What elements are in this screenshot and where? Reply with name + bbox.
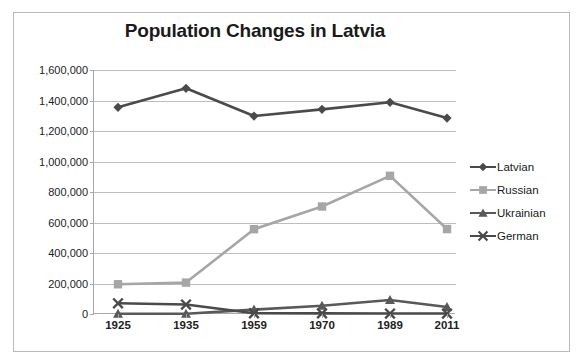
legend-item-russian[interactable]: Russian <box>470 178 570 201</box>
x-axis-tick-mark <box>254 314 255 318</box>
y-axis-tick-mark <box>90 314 94 315</box>
legend-item-german[interactable]: German <box>470 224 570 247</box>
x-axis-tick-label: 1989 <box>377 319 403 331</box>
y-axis-tick-label: 400,000 <box>10 247 88 259</box>
gridline <box>94 70 456 71</box>
y-axis-tick-mark <box>90 162 94 163</box>
gridline <box>94 284 456 285</box>
y-axis-tick-mark <box>90 284 94 285</box>
y-axis-tick-label: 1,200,000 <box>10 125 88 137</box>
x-axis-tick-label: 1925 <box>105 319 131 331</box>
gridline <box>94 162 456 163</box>
gridline <box>94 101 456 102</box>
gridline <box>94 192 456 193</box>
x-axis-tick-label: 2011 <box>435 319 460 331</box>
y-axis-tick-label: 1,600,000 <box>10 64 88 76</box>
page-title: Population Changes in Latvia <box>40 20 470 42</box>
x-axis-tick-mark <box>390 314 391 318</box>
legend-marker-glyph <box>470 183 496 197</box>
plot-area <box>93 70 455 314</box>
y-axis-tick-mark <box>90 131 94 132</box>
x-axis-tick-label: 1959 <box>241 319 267 331</box>
legend-marker-icon <box>470 183 496 197</box>
gridline <box>94 131 456 132</box>
chart-figure: Population Changes in Latvia 1,600,0001,… <box>0 0 582 364</box>
legend-marker-glyph <box>470 229 496 243</box>
y-axis-tick-labels: 1,600,0001,400,0001,200,0001,000,000800,… <box>8 70 88 314</box>
y-axis-tick-mark <box>90 101 94 102</box>
y-axis-tick-label: 1,000,000 <box>10 156 88 168</box>
chart-legend: LatvianRussianUkrainianGerman <box>470 155 570 247</box>
gridline <box>94 223 456 224</box>
x-axis-tick-mark <box>447 314 448 318</box>
legend-label: Russian <box>497 184 539 196</box>
x-axis-tick-mark <box>118 314 119 318</box>
y-axis-tick-mark <box>90 192 94 193</box>
legend-marker-glyph <box>470 206 496 220</box>
legend-marker-icon <box>470 206 496 220</box>
legend-marker-icon <box>470 229 496 243</box>
x-axis-tick-mark <box>322 314 323 318</box>
x-axis-tick-label: 1970 <box>309 319 335 331</box>
y-axis-tick-mark <box>90 70 94 71</box>
legend-item-latvian[interactable]: Latvian <box>470 155 570 178</box>
y-axis-tick-label: 0 <box>10 308 88 320</box>
legend-marker-icon <box>470 160 496 174</box>
x-axis-tick-label: 1935 <box>173 319 199 331</box>
legend-label: Latvian <box>497 161 534 173</box>
y-axis-tick-label: 600,000 <box>10 217 88 229</box>
gridline <box>94 253 456 254</box>
legend-marker-glyph <box>470 160 496 174</box>
legend-label: German <box>497 230 539 242</box>
legend-label: Ukrainian <box>497 207 546 219</box>
y-axis-tick-label: 200,000 <box>10 278 88 290</box>
y-axis-tick-mark <box>90 253 94 254</box>
legend-item-ukrainian[interactable]: Ukrainian <box>470 201 570 224</box>
x-axis-tick-mark <box>186 314 187 318</box>
y-axis-tick-mark <box>90 223 94 224</box>
y-axis-tick-label: 800,000 <box>10 186 88 198</box>
y-axis-tick-label: 1,400,000 <box>10 95 88 107</box>
